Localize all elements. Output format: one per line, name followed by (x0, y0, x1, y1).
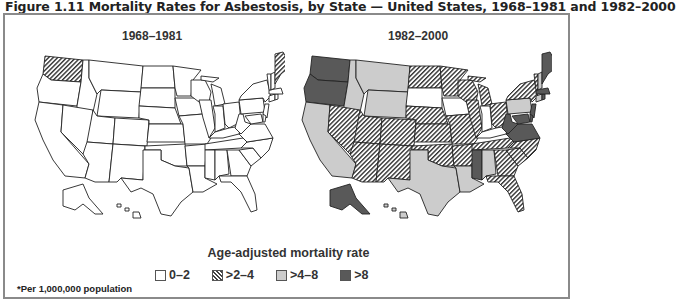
state-hi (117, 204, 141, 218)
us-map-1968-1981 (25, 44, 285, 224)
state-ri (542, 94, 545, 100)
state-pa (506, 98, 532, 114)
state-ms (205, 150, 215, 180)
legend-label: >2–4 (226, 268, 254, 282)
state-nm (109, 144, 145, 182)
state-al (215, 150, 229, 180)
swatch-0-2 (155, 270, 166, 281)
state-de (263, 114, 266, 122)
footnote: *Per 1,000,000 population (17, 283, 132, 294)
state-mt (89, 60, 143, 94)
legend-label: 0–2 (169, 268, 190, 282)
state-wi (191, 80, 211, 102)
state-ny (239, 80, 271, 102)
swatch-2-4 (212, 270, 223, 281)
state-mt (356, 60, 410, 94)
state-co (380, 118, 416, 146)
state-sd (406, 88, 442, 108)
state-me (275, 52, 285, 84)
state-ri (275, 94, 278, 100)
state-de (530, 114, 533, 122)
state-ar (452, 144, 474, 166)
state-al (482, 150, 496, 180)
state-nm (376, 144, 412, 182)
state-ny (506, 80, 538, 102)
map-title-1982-2000: 1982–2000 (388, 29, 448, 43)
figure-frame: 1968–1981 1982–2000 Age-adjusted mortali… (3, 13, 570, 299)
state-nh (538, 72, 542, 90)
legend-item-0-2: 0–2 (155, 268, 190, 282)
legend: 0–2 >2–4 >4–8 >8 (155, 268, 390, 282)
state-nh (271, 72, 275, 90)
state-az (83, 142, 113, 182)
legend-title: Age-adjusted mortality rate (5, 246, 572, 260)
state-nd (408, 66, 442, 88)
state-az (350, 142, 380, 182)
legend-label: >8 (354, 268, 368, 282)
legend-label: >4–8 (290, 268, 318, 282)
state-ar (185, 144, 207, 166)
legend-item-gt8: >8 (340, 268, 368, 282)
legend-item-2-4: >2–4 (212, 268, 254, 282)
state-me (542, 52, 552, 84)
figure-title: Figure 1.11 Mortality Rates for Asbestos… (5, 0, 676, 14)
state-wy (97, 90, 141, 118)
state-wi (458, 80, 478, 102)
state-ks (414, 124, 452, 142)
state-ks (147, 124, 185, 142)
state-pa (239, 98, 265, 114)
state-nd (141, 66, 175, 88)
state-ak (63, 184, 103, 214)
swatch-gt8 (340, 270, 351, 281)
state-wy (364, 90, 408, 118)
swatch-4-8 (276, 270, 287, 281)
state-ak (330, 184, 370, 214)
state-fl (486, 176, 524, 212)
map-title-1968-1981: 1968–1981 (122, 29, 182, 43)
state-ms (472, 150, 482, 180)
state-fl (219, 176, 257, 212)
state-co (113, 118, 149, 146)
us-map-1982-2000 (292, 44, 552, 224)
state-sd (139, 88, 175, 108)
legend-item-4-8: >4–8 (276, 268, 318, 282)
state-hi (384, 204, 408, 218)
